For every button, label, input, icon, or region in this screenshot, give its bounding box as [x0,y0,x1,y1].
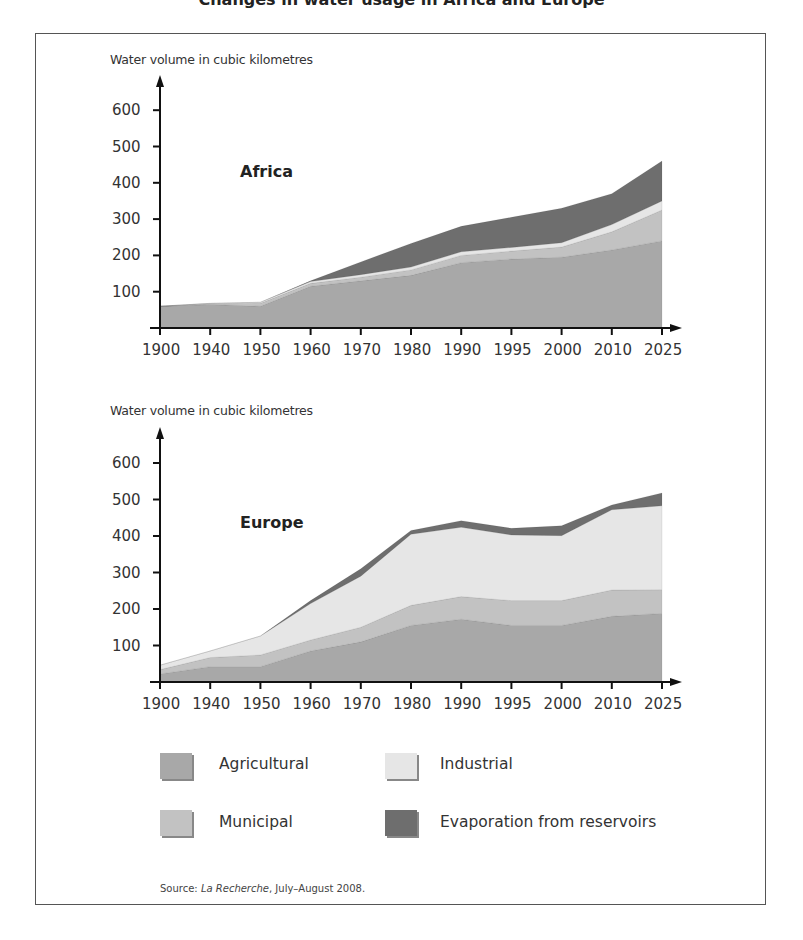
x-tick-label: 1900 [142,695,180,713]
source-prefix: Source: [160,883,201,894]
y-tick-label: 600 [112,101,141,119]
source-publication: La Recherche [201,883,269,894]
y-tick-label: 400 [112,527,141,545]
x-tick-label: 1990 [443,341,481,359]
y-tick-label: 300 [112,210,141,228]
legend-label-evaporation: Evaporation from reservoirs [440,813,656,831]
y-tick-label: 200 [112,600,141,618]
legend-swatch-industrial [385,753,417,779]
x-tick-label: 1960 [293,341,331,359]
legend-label-municipal: Municipal [219,813,293,831]
x-tick-label: 1940 [192,695,230,713]
legend-label-agricultural: Agricultural [219,755,309,773]
y-tick-label: 100 [112,637,141,655]
legend-swatch-agricultural [160,753,192,779]
x-tick-label: 1995 [493,695,531,713]
x-tick-label: 1990 [443,695,481,713]
y-tick-label: 500 [112,138,141,156]
legend-swatch-municipal [160,810,192,836]
y-axis-arrow-icon [156,427,164,439]
y-tick-label: 400 [112,174,141,192]
y-tick-label: 100 [112,283,141,301]
x-tick-label: 2000 [544,341,582,359]
x-tick-label: 1960 [293,695,331,713]
y-tick-label: 300 [112,564,141,582]
x-tick-label: 1970 [343,695,381,713]
x-tick-label: 1970 [343,341,381,359]
x-axis-arrow-icon [670,678,682,686]
x-tick-label: 1950 [242,341,280,359]
source-suffix: , July–August 2008. [269,883,365,894]
y-tick-label: 200 [112,246,141,264]
legend-swatch-evaporation [385,810,417,836]
x-tick-label: 1940 [192,341,230,359]
x-tick-label: 2000 [544,695,582,713]
x-tick-label: 1900 [142,341,180,359]
source-note: Source: La Recherche, July–August 2008. [160,883,365,894]
x-tick-label: 1950 [242,695,280,713]
x-tick-label: 2025 [644,341,682,359]
x-tick-label: 2025 [644,695,682,713]
x-tick-label: 2010 [594,695,632,713]
legend-label-industrial: Industrial [440,755,513,773]
x-tick-label: 1995 [493,341,531,359]
x-tick-label: 2010 [594,341,632,359]
x-tick-label: 1980 [393,695,431,713]
x-tick-label: 1980 [393,341,431,359]
y-tick-label: 600 [112,454,141,472]
y-tick-label: 500 [112,491,141,509]
